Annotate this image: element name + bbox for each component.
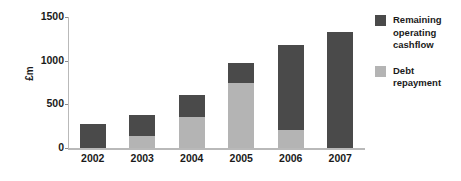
legend-swatch-remaining-operating-cashflow	[375, 15, 386, 26]
plot-area	[68, 17, 365, 148]
bar-segment[interactable]	[228, 83, 254, 149]
x-axis-tick-label: 2007	[316, 152, 366, 164]
y-axis-tick-label: 1000	[30, 55, 64, 66]
bar-segment[interactable]	[80, 124, 106, 148]
bar-group[interactable]	[278, 45, 304, 148]
x-axis-line	[68, 148, 365, 150]
bar-segment[interactable]	[129, 115, 155, 136]
x-axis-tick-label: 2004	[167, 152, 217, 164]
x-axis-tick-label: 2005	[217, 152, 267, 164]
bar-segment[interactable]	[327, 32, 353, 148]
bar-segment[interactable]	[228, 63, 254, 82]
bar-group[interactable]	[80, 124, 106, 148]
y-axis-tick-mark	[65, 17, 68, 18]
bar-group[interactable]	[327, 32, 353, 148]
bar-segment[interactable]	[129, 136, 155, 148]
legend-swatch-debt-repayment	[375, 66, 386, 77]
x-axis-tick-label: 2006	[266, 152, 316, 164]
y-axis-tick-mark	[65, 104, 68, 105]
bar-segment[interactable]	[278, 45, 304, 129]
x-axis-tick-label: 2002	[68, 152, 118, 164]
bar-segment[interactable]	[179, 95, 205, 117]
bar-group[interactable]	[129, 115, 155, 148]
legend-item[interactable]: Debt repayment	[375, 65, 461, 90]
legend: Remaining operating cashflowDebt repayme…	[375, 14, 461, 103]
y-axis-tick-label: 1500	[30, 11, 64, 22]
legend-item[interactable]: Remaining operating cashflow	[375, 14, 461, 52]
y-axis-tick-mark	[65, 148, 68, 149]
bar-group[interactable]	[179, 95, 205, 148]
legend-item-label: Debt repayment	[393, 65, 441, 90]
y-axis-tick-label: 0	[30, 142, 64, 153]
bar-segment[interactable]	[278, 130, 304, 148]
bar-chart: £m 050010001500 200220032004200520062007…	[0, 0, 461, 181]
bar-segment[interactable]	[179, 117, 205, 148]
x-axis-tick-label: 2003	[118, 152, 168, 164]
legend-item-label: Remaining operating cashflow	[393, 14, 442, 52]
y-axis-tick-mark	[65, 61, 68, 62]
bar-group[interactable]	[228, 63, 254, 148]
y-axis-tick-label: 500	[30, 98, 64, 109]
